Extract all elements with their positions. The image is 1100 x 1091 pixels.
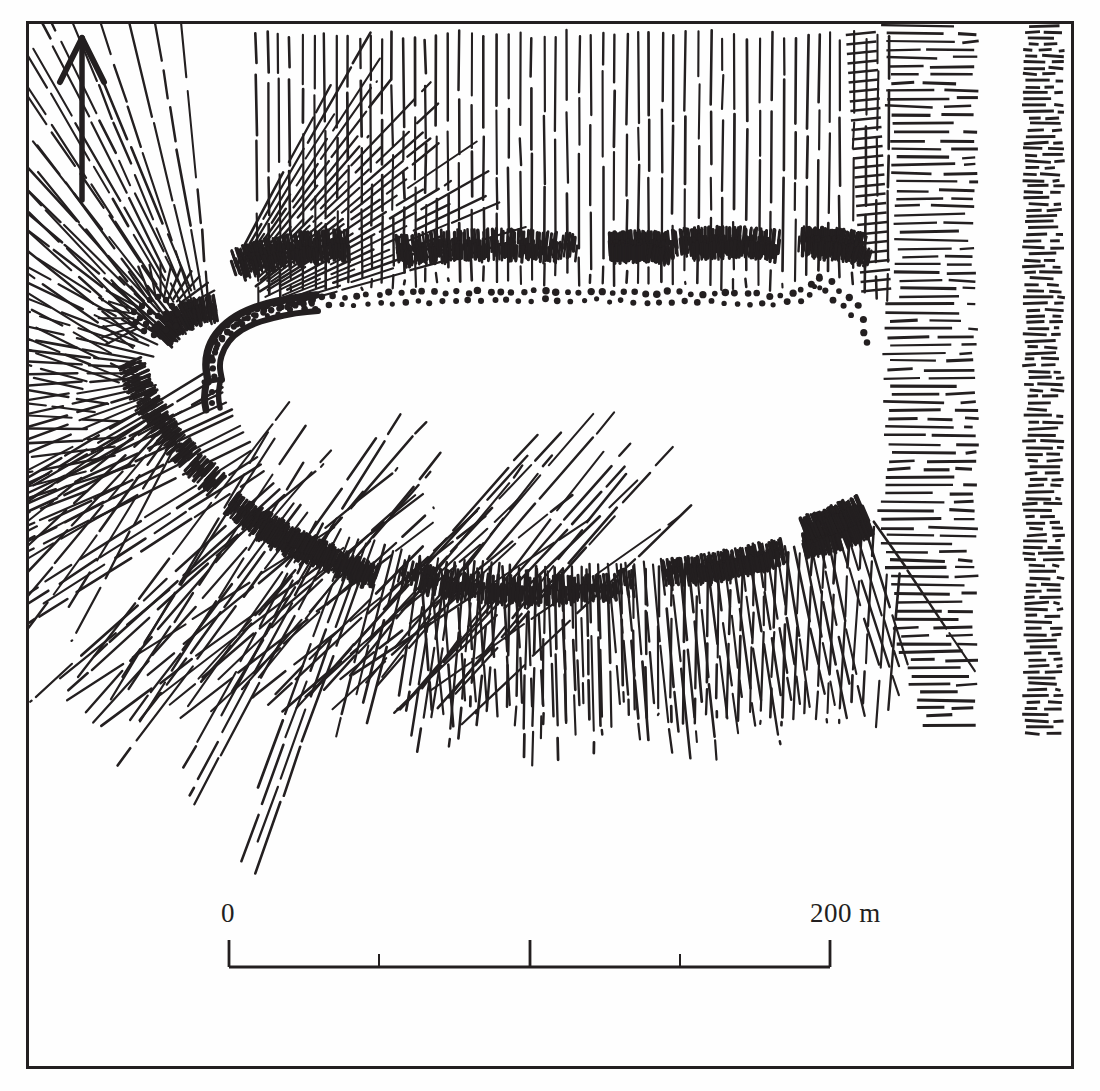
far-east-cliff-band (1022, 26, 1065, 735)
stone-wall-revetment (204, 295, 318, 410)
scale-end-label: 200 m (810, 898, 881, 929)
site-plan-page: .ink { stroke: #231f20; fill: none; stro… (0, 0, 1100, 1091)
site-plan-figure: .ink { stroke: #231f20; fill: none; stro… (0, 0, 1100, 1091)
rampart-crest-dotted-line (131, 274, 870, 364)
scale-bar (229, 940, 830, 967)
scale-start-label: 0 (221, 898, 235, 929)
north-slope-hachures (237, 30, 889, 306)
